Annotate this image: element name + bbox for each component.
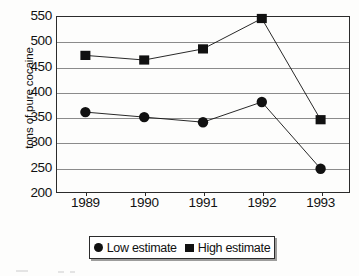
y-axis-tick-label: 400 (14, 85, 52, 98)
gridline (57, 143, 349, 144)
y-axis-tick-label: 450 (14, 60, 52, 73)
y-axis-tick-label: 350 (14, 110, 52, 123)
chart-legend: Low estimate High estimate (89, 236, 275, 259)
scan-artifact (16, 270, 28, 272)
scan-artifact (58, 271, 64, 273)
x-axis-tick-label: 1990 (114, 195, 174, 210)
x-axis-tick-label: 1991 (173, 195, 233, 210)
legend-label-low-estimate: Low estimate (107, 241, 177, 255)
scan-artifact (70, 271, 75, 273)
gridline (57, 93, 349, 94)
x-axis-tick-label: 1989 (55, 195, 115, 210)
line-chart: tons of pure cocaine 2002503003504004505… (0, 0, 359, 276)
y-axis-tick-label: 550 (14, 9, 52, 22)
y-axis-tick-label: 250 (14, 161, 52, 174)
y-axis-tick-label: 500 (14, 34, 52, 47)
gridline (57, 169, 349, 170)
circle-marker-icon (94, 243, 103, 252)
y-axis-tick-label: 200 (14, 186, 52, 199)
legend-entry-low-estimate: Low estimate (94, 241, 177, 255)
x-axis-tick-label: 1992 (232, 195, 292, 210)
y-axis-tick-label: 300 (14, 135, 52, 148)
legend-label-high-estimate: High estimate (198, 241, 271, 255)
gridline (57, 118, 349, 119)
square-marker-icon (185, 244, 194, 252)
legend-entry-high-estimate: High estimate (185, 241, 271, 255)
x-axis-tick-label: 1993 (291, 195, 351, 210)
x-axis-tick-labels: 19891990199119921993 (56, 195, 350, 215)
y-axis-tick-labels: 200250300350400450500550 (14, 0, 52, 276)
plot-area (56, 16, 350, 193)
gridline (57, 42, 349, 43)
gridline (57, 68, 349, 69)
